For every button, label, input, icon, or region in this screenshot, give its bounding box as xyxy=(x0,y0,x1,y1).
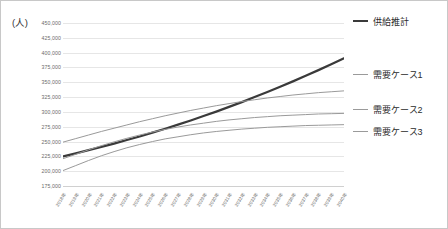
x-axis-tick-label: 2029年 xyxy=(195,191,208,208)
legend-label: 需要ケース3 xyxy=(373,125,422,138)
x-axis-tick-labels: 2018年2019年2020年2021年2022年2023年2024年2025年… xyxy=(63,189,344,225)
x-axis-tick-label: 2035年 xyxy=(271,191,284,208)
x-axis-tick-label: 2018年 xyxy=(54,191,67,208)
chart-legend: 供給推計需要ケース1需要ケース2需要ケース3 xyxy=(353,1,448,229)
legend-line-swatch xyxy=(353,74,368,75)
y-axis-tick-label: 450,000 xyxy=(42,20,61,26)
y-axis-tick-label: 200,000 xyxy=(42,168,61,174)
y-axis-tick-label: 225,000 xyxy=(42,153,61,159)
plot-area xyxy=(63,23,344,186)
x-axis-tick-label: 2030年 xyxy=(207,191,220,208)
gridline xyxy=(63,186,344,187)
x-axis-tick-label: 2038年 xyxy=(309,191,322,208)
x-axis-tick-label: 2023年 xyxy=(118,191,131,208)
y-axis-tick-label: 325,000 xyxy=(42,94,61,100)
x-axis-tick-label: 2019年 xyxy=(67,191,80,208)
legend-line-swatch xyxy=(353,109,368,110)
x-axis-tick-label: 2034年 xyxy=(258,191,271,208)
y-axis-tick-labels: 450,000425,000400,000375,000350,000325,0… xyxy=(27,23,61,186)
x-axis-tick-label: 2037年 xyxy=(297,191,310,208)
y-axis-unit-label: (人) xyxy=(12,15,28,29)
legend-entry[interactable]: 需要ケース1 xyxy=(353,68,422,80)
y-axis-tick-label: 425,000 xyxy=(42,35,61,41)
y-axis-tick-label: 400,000 xyxy=(42,50,61,56)
y-axis-tick-label: 175,000 xyxy=(42,183,61,189)
x-axis-tick-label: 2033年 xyxy=(246,191,259,208)
x-axis-tick-label: 2026年 xyxy=(156,191,169,208)
legend-entry[interactable]: 供給推計 xyxy=(353,15,409,27)
y-axis-tick-label: 350,000 xyxy=(42,79,61,85)
x-axis-tick-label: 2020年 xyxy=(80,191,93,208)
x-axis-tick-label: 2032年 xyxy=(233,191,246,208)
legend-entry[interactable]: 需要ケース2 xyxy=(353,103,422,115)
x-axis-tick-label: 2027年 xyxy=(169,191,182,208)
y-axis-tick-label: 300,000 xyxy=(42,109,61,115)
x-axis-tick-label: 2021年 xyxy=(92,191,105,208)
x-axis-tick-label: 2036年 xyxy=(284,191,297,208)
legend-label: 需要ケース2 xyxy=(373,103,422,116)
y-axis-tick-label: 250,000 xyxy=(42,139,61,145)
legend-label: 供給推計 xyxy=(373,15,409,28)
x-axis-tick-label: 2025年 xyxy=(143,191,156,208)
series-line xyxy=(63,113,344,158)
series-line xyxy=(63,125,344,171)
x-axis-tick-label: 2040年 xyxy=(335,191,348,208)
legend-line-swatch xyxy=(353,20,368,22)
chart-container: (人) 450,000425,000400,000375,000350,0003… xyxy=(0,0,448,229)
x-axis-tick-label: 2022年 xyxy=(105,191,118,208)
y-axis-tick-label: 275,000 xyxy=(42,124,61,130)
legend-label: 需要ケース1 xyxy=(373,68,422,81)
y-axis-tick-label: 375,000 xyxy=(42,64,61,70)
series-lines xyxy=(63,23,344,186)
x-axis-tick-label: 2031年 xyxy=(220,191,233,208)
x-axis-tick-label: 2039年 xyxy=(322,191,335,208)
series-line xyxy=(63,58,344,156)
x-axis-tick-label: 2028年 xyxy=(182,191,195,208)
legend-line-swatch xyxy=(353,131,368,132)
x-axis-tick-label: 2024年 xyxy=(131,191,144,208)
legend-entry[interactable]: 需要ケース3 xyxy=(353,125,422,137)
